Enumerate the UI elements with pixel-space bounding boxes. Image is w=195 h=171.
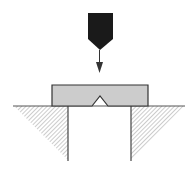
charpy-diagram: Charpy impact test setup [0, 0, 195, 171]
hammer [88, 13, 113, 50]
notched-specimen [52, 85, 148, 106]
right-support-hatch [131, 106, 184, 160]
left-support-hatch [14, 106, 68, 160]
left-support [14, 106, 68, 161]
arrow-down-icon [96, 62, 103, 73]
impact-arrow [96, 50, 103, 73]
specimen [52, 85, 148, 106]
striker-icon [88, 13, 113, 50]
diagram-svg [0, 0, 195, 171]
right-support [131, 106, 184, 161]
